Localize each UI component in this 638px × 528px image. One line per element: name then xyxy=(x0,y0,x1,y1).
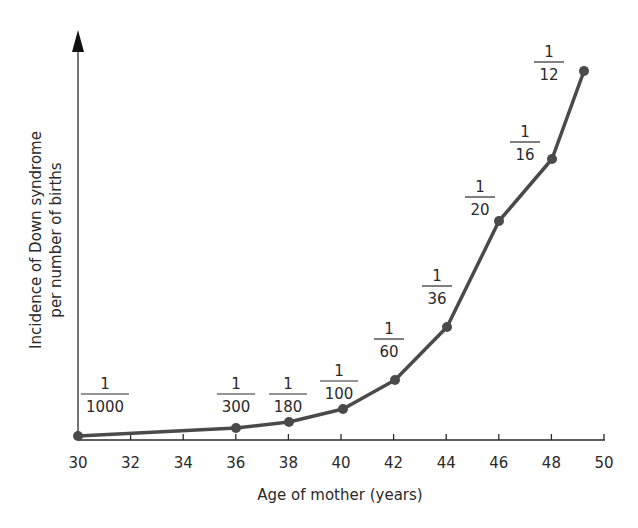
x-tick-label: 32 xyxy=(121,454,140,472)
x-tick-label: 38 xyxy=(279,454,298,472)
fraction-denominator: 16 xyxy=(515,146,534,164)
y-axis-title-line-2: per number of births xyxy=(47,162,65,317)
fraction-numerator: 1 xyxy=(283,375,293,393)
fraction-numerator: 1 xyxy=(100,375,110,393)
fraction-denominator: 20 xyxy=(470,201,489,219)
fraction-denominator: 180 xyxy=(274,398,303,416)
data-point-marker xyxy=(73,431,83,441)
fraction-numerator: 1 xyxy=(520,123,530,141)
x-tick-label: 42 xyxy=(384,454,403,472)
fraction-numerator: 1 xyxy=(231,375,241,393)
fraction-numerator: 1 xyxy=(544,43,554,61)
fraction-label: 1100 xyxy=(320,362,358,403)
data-point-marker xyxy=(442,322,452,332)
data-labels: 11000130011801100160136120116112 xyxy=(81,43,564,416)
x-tick-label: 40 xyxy=(331,454,350,472)
fraction-denominator: 1000 xyxy=(86,398,124,416)
line-chart: 3032343638404244464850 Age of mother (ye… xyxy=(0,0,638,528)
fraction-denominator: 100 xyxy=(325,385,354,403)
data-point-marker xyxy=(579,66,589,76)
fraction-denominator: 300 xyxy=(222,398,251,416)
fraction-label: 112 xyxy=(534,43,564,84)
data-point-marker xyxy=(231,423,241,433)
x-axis-tick-labels: 3032343638404244464850 xyxy=(68,454,613,472)
x-axis-ticks xyxy=(131,434,604,440)
fraction-denominator: 36 xyxy=(427,290,446,308)
x-tick-label: 48 xyxy=(542,454,561,472)
y-axis-title: Incidence of Down syndrome per number of… xyxy=(27,131,65,349)
fraction-label: 120 xyxy=(465,178,495,219)
data-point-marker xyxy=(338,404,348,414)
fraction-numerator: 1 xyxy=(384,320,394,338)
x-tick-label: 34 xyxy=(174,454,193,472)
fraction-label: 1180 xyxy=(269,375,307,416)
x-tick-label: 46 xyxy=(489,454,508,472)
fraction-label: 160 xyxy=(374,320,404,361)
fraction-label: 11000 xyxy=(81,375,129,416)
data-point-marker xyxy=(390,375,400,385)
data-point-marker xyxy=(547,154,557,164)
x-tick-label: 44 xyxy=(437,454,456,472)
data-point-marker xyxy=(284,417,294,427)
x-tick-label: 36 xyxy=(226,454,245,472)
data-point-marker xyxy=(494,216,504,226)
fraction-denominator: 12 xyxy=(539,66,558,84)
x-tick-label: 30 xyxy=(68,454,87,472)
fraction-numerator: 1 xyxy=(334,362,344,380)
fraction-denominator: 60 xyxy=(379,343,398,361)
fraction-label: 1300 xyxy=(217,375,255,416)
x-axis-title: Age of mother (years) xyxy=(257,486,422,504)
fraction-label: 116 xyxy=(510,123,540,164)
y-axis-arrow-icon xyxy=(72,30,84,52)
y-axis-title-line-1: Incidence of Down syndrome xyxy=(27,131,45,349)
fraction-numerator: 1 xyxy=(475,178,485,196)
fraction-numerator: 1 xyxy=(432,267,442,285)
x-tick-label: 50 xyxy=(594,454,613,472)
fraction-label: 136 xyxy=(422,267,452,308)
